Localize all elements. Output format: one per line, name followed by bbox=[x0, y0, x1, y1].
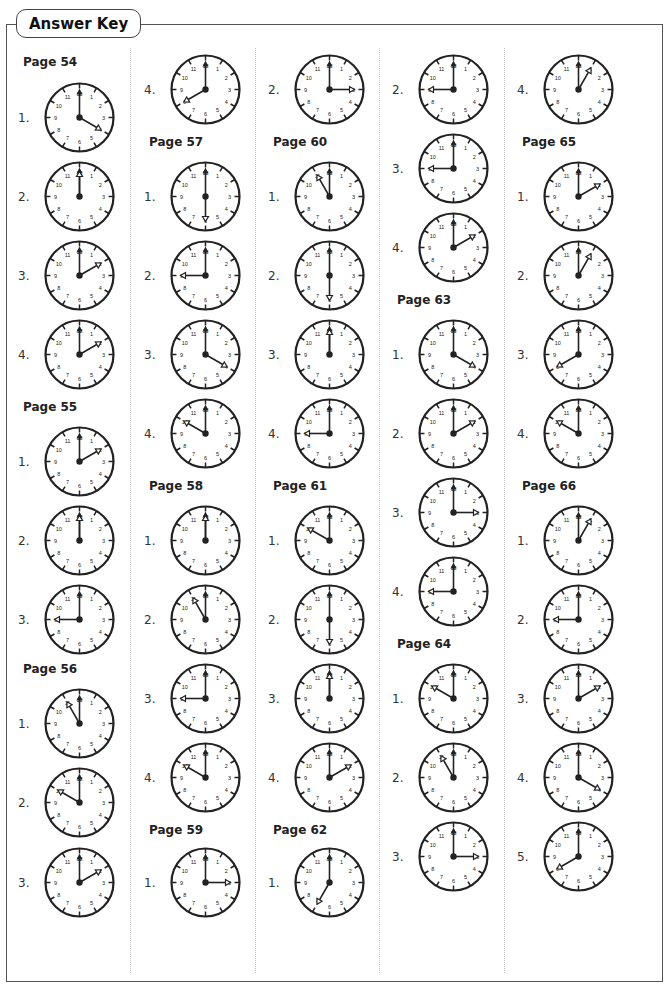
svg-text:2: 2 bbox=[99, 788, 102, 794]
svg-text:11: 11 bbox=[315, 410, 321, 416]
svg-text:4: 4 bbox=[598, 285, 601, 291]
svg-text:3: 3 bbox=[228, 87, 231, 93]
svg-text:11: 11 bbox=[65, 859, 71, 865]
question-number: 3. bbox=[392, 506, 403, 520]
question-number: 2. bbox=[18, 190, 29, 204]
question-number: 1. bbox=[144, 876, 155, 890]
svg-text:10: 10 bbox=[430, 75, 436, 81]
svg-text:11: 11 bbox=[191, 675, 197, 681]
clock-answer: 1.121234567891011 bbox=[18, 424, 142, 500]
svg-text:9: 9 bbox=[304, 273, 307, 279]
svg-text:8: 8 bbox=[556, 550, 559, 556]
svg-text:5: 5 bbox=[464, 186, 467, 192]
svg-text:3: 3 bbox=[352, 775, 355, 781]
svg-text:4: 4 bbox=[225, 629, 228, 635]
question-number: 2. bbox=[517, 613, 528, 627]
svg-text:2: 2 bbox=[225, 684, 228, 690]
svg-text:6: 6 bbox=[204, 455, 207, 461]
clock-answer: 4.121234567891011 bbox=[392, 210, 516, 286]
page-heading: Page 58 bbox=[149, 479, 203, 493]
svg-text:7: 7 bbox=[316, 795, 319, 801]
svg-text:3: 3 bbox=[601, 538, 604, 544]
svg-text:1: 1 bbox=[216, 859, 219, 865]
svg-text:7: 7 bbox=[565, 558, 568, 564]
question-number: 4. bbox=[268, 427, 279, 441]
question-number: 4. bbox=[144, 427, 155, 441]
svg-text:1: 1 bbox=[464, 66, 467, 72]
svg-text:5: 5 bbox=[90, 293, 93, 299]
svg-text:7: 7 bbox=[66, 293, 69, 299]
svg-text:1: 1 bbox=[464, 489, 467, 495]
question-number: 3. bbox=[268, 692, 279, 706]
svg-text:3: 3 bbox=[601, 273, 604, 279]
svg-text:4: 4 bbox=[99, 206, 102, 212]
svg-text:6: 6 bbox=[78, 641, 81, 647]
clock-answer: 1.121234567891011 bbox=[517, 159, 641, 235]
page-heading: Page 59 bbox=[149, 823, 203, 837]
svg-text:10: 10 bbox=[430, 340, 436, 346]
svg-text:2: 2 bbox=[473, 763, 476, 769]
svg-text:8: 8 bbox=[431, 364, 434, 370]
svg-text:6: 6 bbox=[204, 562, 207, 568]
svg-text:8: 8 bbox=[431, 787, 434, 793]
svg-text:1: 1 bbox=[90, 94, 93, 100]
svg-text:11: 11 bbox=[315, 675, 321, 681]
svg-text:1: 1 bbox=[340, 173, 343, 179]
svg-text:7: 7 bbox=[565, 372, 568, 378]
svg-text:3: 3 bbox=[102, 352, 105, 358]
svg-text:2: 2 bbox=[225, 261, 228, 267]
svg-text:5: 5 bbox=[589, 558, 592, 564]
svg-text:4: 4 bbox=[473, 443, 476, 449]
svg-text:4: 4 bbox=[99, 733, 102, 739]
svg-text:3: 3 bbox=[102, 115, 105, 121]
svg-text:4: 4 bbox=[598, 629, 601, 635]
svg-text:8: 8 bbox=[57, 892, 60, 898]
page-heading: Page 64 bbox=[397, 637, 451, 651]
svg-text:5: 5 bbox=[589, 107, 592, 113]
svg-text:6: 6 bbox=[452, 799, 455, 805]
svg-text:4: 4 bbox=[225, 285, 228, 291]
svg-text:3: 3 bbox=[228, 538, 231, 544]
svg-text:4: 4 bbox=[99, 364, 102, 370]
svg-text:11: 11 bbox=[191, 66, 197, 72]
clock-answer: 2.121234567891011 bbox=[144, 582, 268, 658]
svg-text:7: 7 bbox=[565, 293, 568, 299]
svg-text:9: 9 bbox=[54, 273, 57, 279]
svg-text:5: 5 bbox=[216, 716, 219, 722]
svg-text:7: 7 bbox=[565, 107, 568, 113]
svg-text:5: 5 bbox=[216, 558, 219, 564]
svg-text:5: 5 bbox=[589, 372, 592, 378]
question-number: 1. bbox=[268, 190, 279, 204]
svg-text:3: 3 bbox=[228, 194, 231, 200]
svg-text:10: 10 bbox=[182, 261, 188, 267]
svg-text:8: 8 bbox=[57, 812, 60, 818]
svg-text:8: 8 bbox=[431, 257, 434, 263]
svg-text:6: 6 bbox=[78, 218, 81, 224]
svg-text:3: 3 bbox=[228, 273, 231, 279]
svg-text:8: 8 bbox=[556, 443, 559, 449]
page-heading: Page 61 bbox=[273, 479, 327, 493]
svg-text:4: 4 bbox=[349, 206, 352, 212]
clock-answer: 3.121234567891011 bbox=[392, 475, 516, 551]
svg-text:1: 1 bbox=[464, 331, 467, 337]
svg-text:4: 4 bbox=[99, 285, 102, 291]
clock-answer: 2.121234567891011 bbox=[144, 238, 268, 314]
svg-text:8: 8 bbox=[183, 285, 186, 291]
svg-text:10: 10 bbox=[56, 182, 62, 188]
svg-text:10: 10 bbox=[56, 447, 62, 453]
svg-text:10: 10 bbox=[430, 842, 436, 848]
question-number: 1. bbox=[18, 455, 29, 469]
svg-text:5: 5 bbox=[340, 558, 343, 564]
svg-text:3: 3 bbox=[601, 194, 604, 200]
svg-text:4: 4 bbox=[598, 364, 601, 370]
svg-text:11: 11 bbox=[564, 754, 570, 760]
svg-text:8: 8 bbox=[431, 99, 434, 105]
svg-text:1: 1 bbox=[216, 173, 219, 179]
svg-text:11: 11 bbox=[191, 331, 197, 337]
svg-text:3: 3 bbox=[476, 166, 479, 172]
svg-text:11: 11 bbox=[564, 517, 570, 523]
svg-text:7: 7 bbox=[66, 479, 69, 485]
svg-text:9: 9 bbox=[304, 87, 307, 93]
svg-text:7: 7 bbox=[440, 874, 443, 880]
svg-text:2: 2 bbox=[349, 868, 352, 874]
